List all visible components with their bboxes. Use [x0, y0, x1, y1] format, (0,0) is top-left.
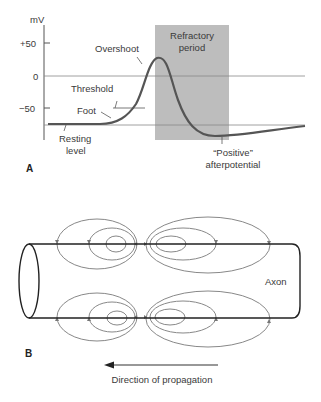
refractory-period-label: period	[179, 42, 205, 53]
y-unit-label: mV	[30, 14, 45, 25]
afterpotential-label: afterpotential	[206, 159, 261, 170]
resting-level-label: level	[66, 145, 86, 156]
panel-b: Axon B Direction of propagation	[19, 217, 300, 385]
tick-plus50: +50	[20, 38, 36, 49]
panel-a-letter: A	[26, 163, 33, 174]
resting-label: Resting	[59, 133, 91, 144]
threshold-label: Threshold	[71, 83, 113, 94]
axon-cross-section	[19, 244, 39, 318]
overshoot-label: Overshoot	[95, 43, 139, 54]
arrowhead-left-icon	[104, 362, 114, 369]
panel-b-letter: B	[25, 348, 32, 359]
tick-minus50: −50	[19, 103, 35, 114]
axon-label: Axon	[265, 276, 287, 287]
foot-label: Foot	[77, 105, 96, 116]
axon-cylinder	[29, 244, 300, 318]
action-potential-figure: mV +50 0 −50 Overshoot Threshold Foot Re…	[0, 0, 321, 402]
panel-a: mV +50 0 −50 Overshoot Threshold Foot Re…	[19, 14, 305, 174]
refractory-label: Refractory	[170, 30, 214, 41]
positive-label: “Positive”	[213, 147, 253, 158]
direction-label: Direction of propagation	[112, 374, 213, 385]
current-arrowheads	[55, 240, 271, 323]
current-loops	[57, 217, 270, 347]
tick-0: 0	[33, 71, 38, 82]
